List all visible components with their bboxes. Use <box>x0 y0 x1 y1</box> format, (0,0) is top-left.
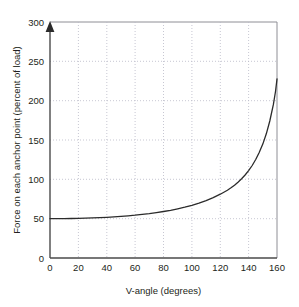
force-vs-vangle-chart: 300 250 200 150 100 50 0 0 20 40 60 80 1… <box>0 0 299 307</box>
vertical-gridlines <box>78 22 248 258</box>
x-tick-label-140: 140 <box>241 262 257 273</box>
y-tick-label-200: 200 <box>28 95 44 106</box>
chart-container: 300 250 200 150 100 50 0 0 20 40 60 80 1… <box>0 0 299 307</box>
y-tick-label-50: 50 <box>33 213 44 224</box>
y-tick-label-150: 150 <box>28 135 44 146</box>
x-axis-title: V-angle (degrees) <box>126 285 202 296</box>
y-tick-label-0: 0 <box>39 253 44 264</box>
y-axis-title: Force on each anchor point (percent of l… <box>11 46 22 233</box>
y-axis-tick-labels: 300 250 200 150 100 50 0 <box>28 17 44 264</box>
x-tick-label-60: 60 <box>130 262 141 273</box>
x-axis-tick-labels: 0 20 40 60 80 100 120 140 160 <box>47 262 285 273</box>
x-tick-label-0: 0 <box>47 262 52 273</box>
y-axis-arrow-icon <box>46 21 55 32</box>
x-tick-label-20: 20 <box>73 262 84 273</box>
y-tick-label-300: 300 <box>28 17 44 28</box>
x-tick-label-80: 80 <box>158 262 169 273</box>
y-tick-label-100: 100 <box>28 174 44 185</box>
x-tick-label-160: 160 <box>269 262 285 273</box>
y-tick-label-250: 250 <box>28 56 44 67</box>
axes <box>46 21 277 258</box>
x-tick-label-120: 120 <box>212 262 228 273</box>
x-tick-label-40: 40 <box>102 262 113 273</box>
x-tick-label-100: 100 <box>184 262 200 273</box>
